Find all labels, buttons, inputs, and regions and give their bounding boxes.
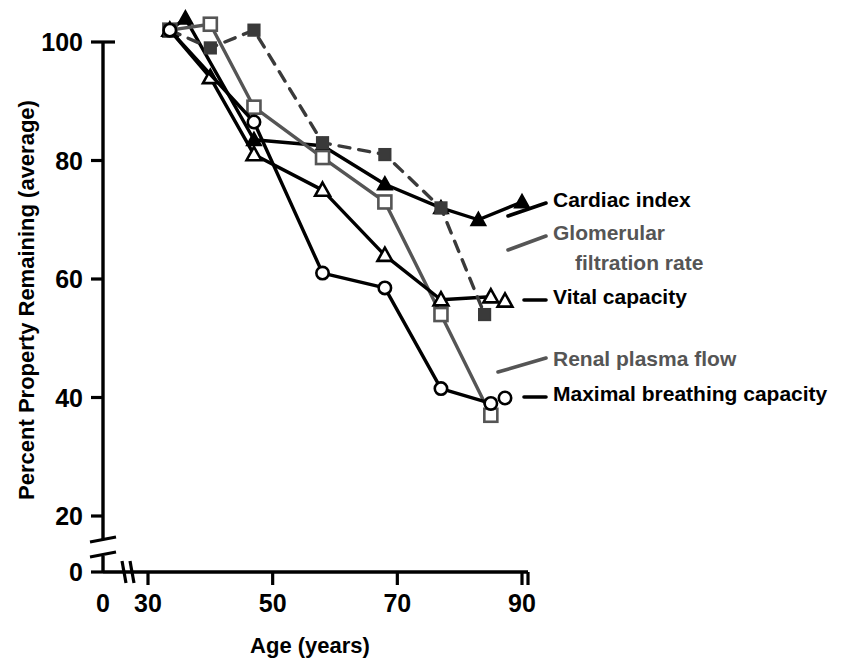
- data-point-open-circle: [316, 267, 328, 279]
- data-point-open-circle: [485, 397, 497, 409]
- legend-line-swatch: [508, 236, 546, 250]
- legend-line-swatch: [498, 358, 546, 372]
- data-point-filled-square: [479, 309, 491, 321]
- legend-entry-label[interactable]: Glomerular: [553, 221, 665, 244]
- x-axis-tick-label: 0: [96, 589, 110, 617]
- data-point-open-circle: [164, 24, 176, 36]
- data-point-open-circle: [379, 282, 391, 294]
- data-point-open-triangle: [247, 147, 262, 160]
- data-point-filled-square: [379, 149, 391, 161]
- data-point-open-square: [247, 101, 260, 114]
- legend: Cardiac indexGlomerularfiltration rateVi…: [498, 188, 828, 405]
- data-point-open-triangle: [315, 183, 330, 196]
- data-point-open-circle: [248, 116, 260, 128]
- legend-entry-label[interactable]: Maximal breathing capacity: [553, 382, 828, 405]
- chart-canvas: 020406080100030507090Age (years)Percent …: [0, 0, 865, 671]
- legend-entry-label[interactable]: Cardiac index: [553, 188, 691, 211]
- series-cardiac-index: [162, 11, 529, 226]
- data-point-open-square: [204, 18, 217, 31]
- chart-figure: 020406080100030507090Age (years)Percent …: [0, 0, 865, 671]
- y-axis-tick-label: 100: [41, 28, 83, 56]
- x-axis-tick-label: 90: [508, 589, 536, 617]
- x-axis-tick-label: 70: [383, 589, 411, 617]
- y-axis-title: Percent Property Remaining (average): [14, 100, 39, 500]
- legend-entry-label[interactable]: filtration rate: [575, 251, 703, 274]
- data-point-open-square: [316, 151, 329, 164]
- data-point-filled-square: [435, 202, 447, 214]
- y-axis-tick-label: 40: [55, 384, 83, 412]
- data-point-open-triangle: [498, 293, 513, 306]
- data-point-filled-triangle: [377, 177, 392, 190]
- data-point-open-square: [378, 195, 391, 208]
- data-point-filled-square: [205, 42, 217, 54]
- series-line: [170, 30, 491, 403]
- y-axis-tick-label: 60: [55, 265, 83, 293]
- y-axis-tick-label: 80: [55, 147, 83, 175]
- data-point-filled-triangle: [178, 11, 193, 24]
- axes-group: 020406080100030507090: [41, 28, 536, 617]
- cropped-caption-strip: [0, 655, 865, 671]
- x-axis-tick-label: 30: [134, 589, 162, 617]
- data-point-open-triangle: [483, 289, 498, 302]
- data-point-open-circle: [435, 382, 447, 394]
- data-point-filled-square: [317, 137, 329, 149]
- data-point-open-square: [434, 308, 447, 321]
- y-axis-tick-label: 20: [55, 502, 83, 530]
- data-point-filled-square: [248, 24, 260, 36]
- x-axis-tick-label: 50: [259, 589, 287, 617]
- data-point-open-circle: [499, 392, 511, 404]
- data-point-filled-triangle: [515, 194, 530, 207]
- legend-entry-label[interactable]: Vital capacity: [553, 285, 687, 308]
- x-axis-break-mark: [130, 561, 134, 583]
- y-axis-tick-label: 0: [69, 558, 83, 586]
- legend-entry-label[interactable]: Renal plasma flow: [553, 347, 737, 370]
- x-axis-break-mark: [122, 561, 126, 583]
